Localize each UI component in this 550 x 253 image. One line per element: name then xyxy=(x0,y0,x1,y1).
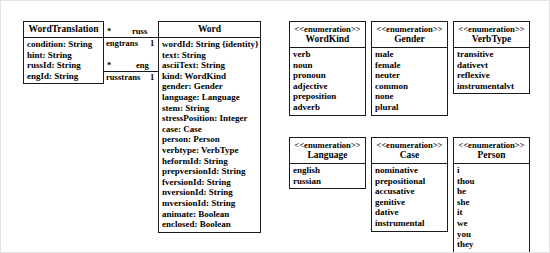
enumeration-literal: it xyxy=(457,207,526,218)
enumeration-literals-wordkind: verb noun pronoun adjective preposition … xyxy=(290,48,365,115)
enumeration-literal: pronoun xyxy=(293,70,362,81)
class-name-word: Word xyxy=(161,24,258,35)
class-attribute: text: String xyxy=(162,50,257,61)
association-source-role-russtrans: russtrans xyxy=(106,73,140,83)
enumeration-literal: we xyxy=(457,218,526,229)
association-target-role-russtrans: eng xyxy=(136,61,149,71)
class-attribute: engId: String xyxy=(27,71,100,82)
enumeration-literals-language: english russian xyxy=(290,164,365,188)
enumeration-literal: you xyxy=(457,229,526,240)
enumeration-header-verbtype: <<enumeration>> VerbType xyxy=(454,22,529,48)
enumeration-box-verbtype[interactable]: <<enumeration>> VerbType transitive dati… xyxy=(453,21,530,94)
stereotype-label: <<enumeration>> xyxy=(374,140,445,150)
enumeration-box-person[interactable]: <<enumeration>> Person i thou he she it … xyxy=(453,137,530,253)
enumeration-literal: transitive xyxy=(457,49,526,60)
enumeration-box-wordkind[interactable]: <<enumeration>> WordKind verb noun prono… xyxy=(289,21,366,116)
enumeration-literal: english xyxy=(293,165,362,176)
class-attribute: condition: String xyxy=(27,39,100,50)
enumeration-literal: instrumental xyxy=(375,218,444,229)
class-attribute: wordId: String {identity} xyxy=(162,39,257,50)
association-source-role-engtrans: engtrans xyxy=(106,39,138,49)
enumeration-literals-gender: male female neuter common none plural xyxy=(372,48,447,115)
enumeration-literal: prepositional xyxy=(375,176,444,187)
association-target-multiplicity-engtrans: 1 xyxy=(150,39,154,49)
enumeration-literal: thou xyxy=(457,176,526,187)
enumeration-literal: preposition xyxy=(293,91,362,102)
class-header-wordtranslation: WordTranslation xyxy=(24,22,103,38)
class-attribute: gender: Gender xyxy=(162,81,257,92)
enumeration-literal: i xyxy=(457,165,526,176)
enumeration-header-wordkind: <<enumeration>> WordKind xyxy=(290,22,365,48)
enumeration-literal: reflexive xyxy=(457,70,526,81)
enumeration-literal: verb xyxy=(293,49,362,60)
enumeration-name-verbtype: VerbType xyxy=(456,34,527,45)
class-attribute: language: Language xyxy=(162,92,257,103)
class-attribute: person: Person xyxy=(162,134,257,145)
class-name-wordtranslation: WordTranslation xyxy=(26,24,101,35)
class-attribute: case: Case xyxy=(162,124,257,135)
class-attribute: fversionId: String xyxy=(162,177,257,188)
association-target-multiplicity-russtrans: 1 xyxy=(150,73,154,83)
enumeration-literal: they xyxy=(457,239,526,250)
class-attribute: prepversionId: String xyxy=(162,166,257,177)
class-attribute: hint: String xyxy=(27,50,100,61)
class-attribute: stem: String xyxy=(162,103,257,114)
stereotype-label: <<enumeration>> xyxy=(456,140,527,150)
stereotype-label: <<enumeration>> xyxy=(456,24,527,34)
association-source-multiplicity-engtrans: * xyxy=(107,27,111,37)
class-attribute: nversionId: String xyxy=(162,187,257,198)
enumeration-literal: russian xyxy=(293,176,362,187)
class-box-word[interactable]: Word wordId: String {identity} text: Str… xyxy=(158,21,261,233)
enumeration-literals-person: i thou he she it we you they xyxy=(454,164,529,252)
stereotype-label: <<enumeration>> xyxy=(292,24,363,34)
enumeration-literals-verbtype: transitive dativevt reflexive instrument… xyxy=(454,48,529,93)
enumeration-name-language: Language xyxy=(292,150,363,161)
enumeration-header-person: <<enumeration>> Person xyxy=(454,138,529,164)
class-attribute: animate: Boolean xyxy=(162,209,257,220)
enumeration-literal: he xyxy=(457,186,526,197)
enumeration-literal: she xyxy=(457,197,526,208)
class-attribute: enclosed: Boolean xyxy=(162,219,257,230)
enumeration-name-gender: Gender xyxy=(374,34,445,45)
stereotype-label: <<enumeration>> xyxy=(292,140,363,150)
enumeration-header-gender: <<enumeration>> Gender xyxy=(372,22,447,48)
enumeration-literal: adverb xyxy=(293,102,362,113)
enumeration-header-language: <<enumeration>> Language xyxy=(290,138,365,164)
class-attributes-wordtranslation: condition: String hint: String russId: S… xyxy=(24,38,103,83)
class-attribute: heformId: String xyxy=(162,156,257,167)
class-attribute: russId: String xyxy=(27,60,100,71)
class-attribute: verbtype: VerbType xyxy=(162,145,257,156)
enumeration-literal: common xyxy=(375,81,444,92)
enumeration-literal: noun xyxy=(293,60,362,71)
class-header-word: Word xyxy=(159,22,260,38)
enumeration-literal: female xyxy=(375,60,444,71)
class-attribute: kind: WordKind xyxy=(162,71,257,82)
enumeration-literals-case: nominative prepositional accusative geni… xyxy=(372,164,447,231)
enumeration-box-language[interactable]: <<enumeration>> Language english russian xyxy=(289,137,366,189)
enumeration-literal: genitive xyxy=(375,197,444,208)
association-source-multiplicity-russtrans: * xyxy=(107,61,111,71)
uml-class-diagram-canvas: WordTranslation condition: String hint: … xyxy=(0,0,550,253)
enumeration-literal: male xyxy=(375,49,444,60)
enumeration-name-case: Case xyxy=(374,150,445,161)
enumeration-header-case: <<enumeration>> Case xyxy=(372,138,447,164)
class-box-wordtranslation[interactable]: WordTranslation condition: String hint: … xyxy=(23,21,104,84)
enumeration-literal: adjective xyxy=(293,81,362,92)
enumeration-literal: instrumentalvt xyxy=(457,81,526,92)
enumeration-box-case[interactable]: <<enumeration>> Case nominative preposit… xyxy=(371,137,448,232)
enumeration-literal: nominative xyxy=(375,165,444,176)
enumeration-literal: accusative xyxy=(375,186,444,197)
stereotype-label: <<enumeration>> xyxy=(374,24,445,34)
association-target-role-engtrans: russ xyxy=(132,27,147,37)
class-attributes-word: wordId: String {identity} text: String a… xyxy=(159,38,260,232)
enumeration-box-gender[interactable]: <<enumeration>> Gender male female neute… xyxy=(371,21,448,116)
enumeration-literal: neuter xyxy=(375,70,444,81)
enumeration-literal: none xyxy=(375,91,444,102)
class-attribute: mversionId: String xyxy=(162,198,257,209)
enumeration-literal: dativevt xyxy=(457,60,526,71)
class-attribute: asciiText: String xyxy=(162,60,257,71)
enumeration-name-person: Person xyxy=(456,150,527,161)
enumeration-literal: plural xyxy=(375,102,444,113)
class-attribute: stressPosition: Integer xyxy=(162,113,257,124)
enumeration-literal: dative xyxy=(375,207,444,218)
